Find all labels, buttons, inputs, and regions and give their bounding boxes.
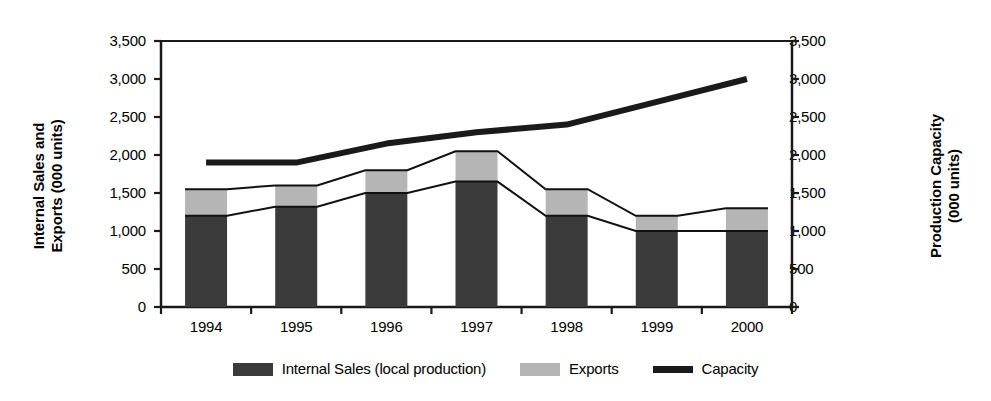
x-tick-label: 1994	[166, 319, 246, 335]
legend-label: Exports	[569, 361, 618, 377]
x-tick-label: 1995	[256, 319, 336, 335]
x-axis-ticks: 1994199519961997199819992000	[0, 0, 991, 401]
x-tick-label: 1998	[527, 319, 607, 335]
x-tick-label: 1996	[346, 319, 426, 335]
x-tick-label: 2000	[707, 319, 787, 335]
legend-label: Capacity	[702, 361, 759, 377]
x-tick-label: 1999	[617, 319, 697, 335]
legend-swatch-line-icon	[653, 366, 693, 373]
legend-swatch-box-icon	[520, 363, 560, 376]
chart-figure: Internal Sales and Exports (000 units) P…	[0, 0, 991, 401]
legend-item[interactable]: Internal Sales (local production)	[233, 361, 486, 377]
chart-legend: Internal Sales (local production)Exports…	[0, 357, 991, 381]
legend-item[interactable]: Capacity	[653, 361, 759, 377]
legend-label: Internal Sales (local production)	[282, 361, 486, 377]
legend-swatch-box-icon	[233, 363, 273, 376]
x-tick-label: 1997	[437, 319, 517, 335]
legend-item[interactable]: Exports	[520, 361, 618, 377]
